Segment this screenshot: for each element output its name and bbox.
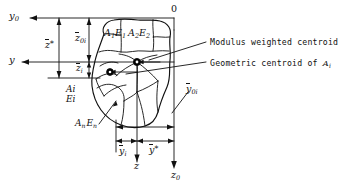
z-0i-arrow-top (87, 18, 92, 25)
y-bar-i-arrow-right (131, 139, 137, 144)
z-star-arrow-bottom (57, 71, 62, 78)
z-axis-label: z (134, 161, 139, 171)
z-star-label: z* (45, 40, 54, 50)
cell-divider-a2-right (153, 20, 154, 51)
cell-label-ai-ei: Ai Ei (66, 85, 75, 104)
origin-label: 0 (171, 4, 177, 14)
figure-container: y0 y 0 z* z0i zi A1E1 A2E2 Ai Ei AnEn y0… (0, 0, 348, 184)
cell-label-a1e1: A1E1 (104, 28, 126, 39)
leader-an-en (99, 101, 116, 124)
cell-label-anen: AnEn (75, 119, 97, 129)
diagram-canvas (0, 0, 348, 184)
y0-axis-label: y0 (9, 11, 19, 23)
z-i-label: zi (76, 64, 83, 74)
cell-divider-low-right2 (137, 81, 158, 92)
cell-divider-low-right (157, 81, 158, 112)
modulus-weighted-centroid-inner (136, 61, 139, 64)
z-i-arrow-bottom (87, 73, 91, 79)
y-star-arrow-right (168, 139, 174, 144)
y0i-arrow-right (167, 124, 174, 129)
z-star-arrow-top (57, 18, 62, 25)
cell-divider-lowleft-bot (104, 85, 126, 96)
y-bar-i-label: yi (119, 146, 126, 157)
z-i-arrow-top (87, 62, 91, 68)
cell-label-ei: Ei (66, 95, 75, 104)
y-star-arrow-left (137, 139, 143, 144)
y-bar-i-arrow-left (116, 139, 122, 144)
y0-axis-arrowhead (30, 15, 37, 21)
z-0i-label: z0i (75, 33, 86, 44)
cell-divider-lowleft-top (100, 62, 118, 66)
cell-label-a2e2: A2E2 (128, 28, 150, 39)
cell-label-ai: Ai (66, 85, 75, 94)
y-bar-0i-label: y0i (186, 84, 198, 95)
cell-divider-low-mid3 (137, 92, 145, 126)
annotation-geometric-centroid: Geometric centroid of Ai (210, 58, 331, 69)
y-star-label: y* (149, 145, 158, 155)
cell-divider-row1 (99, 50, 169, 52)
y-axis-label: y (9, 55, 15, 65)
annotation-modulus-weighted-centroid: Modulus weighted centroid (210, 37, 338, 47)
y-axis-arrowhead (22, 59, 29, 65)
geometric-centroid-inner (109, 71, 112, 74)
cell-divider-low-mid2 (121, 101, 124, 125)
z0-axis-label: z0 (171, 170, 180, 181)
cell-divider-right-top (153, 37, 170, 38)
cell-divider-low-mid1 (124, 92, 137, 101)
z-0i-arrow-bottom (87, 55, 92, 62)
z0-axis-arrowhead (171, 161, 177, 169)
cell-an-en-loop (97, 84, 124, 101)
